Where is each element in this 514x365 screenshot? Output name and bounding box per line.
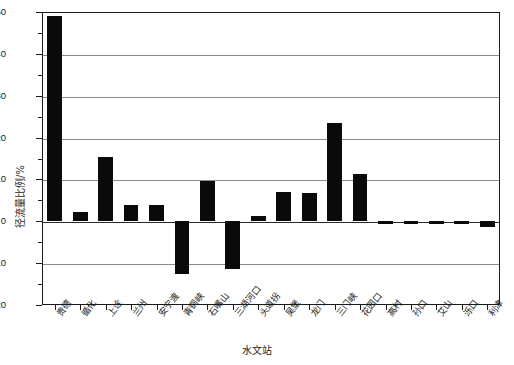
y-tick-label: 50 — [0, 7, 6, 17]
bar — [327, 123, 342, 221]
y-tick-label: 30 — [0, 91, 6, 101]
bar — [47, 16, 62, 221]
bar-series — [42, 12, 500, 305]
bar — [480, 221, 495, 226]
y-tick-label: -20 — [0, 300, 6, 310]
bar — [302, 193, 317, 221]
y-tick-label: 0 — [0, 216, 6, 226]
bar — [149, 205, 164, 222]
y-tick-label: 40 — [0, 49, 6, 59]
y-tick-label: 10 — [0, 174, 6, 184]
runoff-ratio-bar-chart: 径流量比例/% 50403020100-10-20 贵德循化上诠兰州安宁渡青铜峡… — [0, 0, 514, 365]
y-axis-title: 径流量比例/% — [12, 165, 27, 228]
bar — [404, 221, 419, 224]
x-axis-title: 水文站 — [0, 342, 514, 357]
bar — [175, 221, 190, 273]
bar — [251, 216, 266, 221]
y-tick-label: 20 — [0, 133, 6, 143]
y-tick-mark — [36, 305, 42, 306]
bar — [429, 221, 444, 224]
bar — [454, 221, 469, 224]
bar — [73, 212, 88, 221]
bar — [276, 192, 291, 221]
y-tick-label: -10 — [0, 258, 6, 268]
bar — [98, 157, 113, 221]
bar — [353, 174, 368, 221]
bar — [200, 181, 215, 222]
bar — [124, 205, 139, 222]
bar — [378, 221, 393, 224]
bar — [225, 221, 240, 269]
